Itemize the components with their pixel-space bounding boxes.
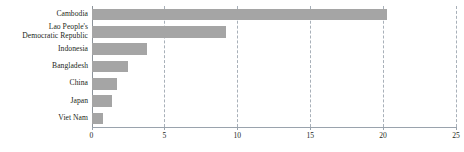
bar-row	[92, 61, 457, 73]
bar	[92, 26, 226, 38]
bar-chart: CambodiaLao People'sDemocratic RepublicI…	[0, 0, 464, 152]
x-tick-label: 5	[162, 131, 166, 140]
x-tick-0	[92, 127, 93, 130]
category-label-line: Viet Nam	[58, 114, 88, 123]
category-label: China	[0, 75, 88, 92]
x-axis-line	[92, 127, 457, 128]
category-label: Viet Nam	[0, 110, 88, 127]
category-label: Cambodia	[0, 6, 88, 23]
x-tick-10	[237, 127, 238, 130]
category-label: Lao People'sDemocratic Republic	[0, 23, 88, 40]
bar	[92, 113, 104, 125]
bar-row	[92, 26, 457, 38]
x-tick-label: 25	[452, 131, 460, 140]
bar-row	[92, 43, 457, 55]
bar	[92, 43, 147, 55]
category-label-line: Bangladesh	[52, 62, 88, 71]
gridline-25	[456, 6, 457, 127]
x-tick-label: 10	[234, 131, 242, 140]
x-tick-25	[456, 127, 457, 130]
category-label: Japan	[0, 92, 88, 109]
bar	[92, 61, 128, 73]
bar-row	[92, 95, 457, 107]
bar	[92, 95, 112, 107]
x-tick-label: 15	[306, 131, 314, 140]
x-tick-15	[310, 127, 311, 130]
x-tick-label: 0	[90, 131, 94, 140]
bar-row	[92, 9, 457, 21]
plot-area	[92, 6, 457, 127]
bar-row	[92, 113, 457, 125]
category-axis-labels: CambodiaLao People'sDemocratic RepublicI…	[0, 6, 88, 127]
category-label-line: Indonesia	[58, 45, 88, 54]
bar	[92, 9, 388, 21]
bar-series	[92, 6, 457, 127]
category-label-line: Cambodia	[56, 10, 88, 19]
bar-row	[92, 78, 457, 90]
category-label-line: Japan	[70, 97, 88, 106]
x-tick-label: 20	[379, 131, 387, 140]
category-label-line: China	[70, 79, 88, 88]
bar	[92, 78, 118, 90]
category-label-line: Democratic Republic	[22, 32, 88, 41]
category-label: Indonesia	[0, 41, 88, 58]
category-label: Bangladesh	[0, 58, 88, 75]
x-tick-5	[164, 127, 165, 130]
x-tick-20	[383, 127, 384, 130]
